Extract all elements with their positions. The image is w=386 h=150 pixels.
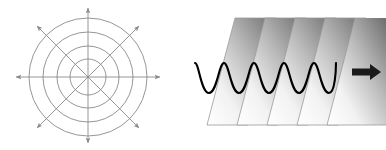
plane-wave-svg — [193, 0, 386, 150]
spherical-wave-svg — [0, 0, 193, 150]
radiating-arrow-group — [16, 8, 160, 143]
figure-root — [0, 0, 386, 150]
arrow-northeast — [88, 26, 139, 77]
plane-wave-panel — [193, 0, 386, 150]
arrow-southwest — [37, 77, 88, 128]
arrow-southeast — [88, 77, 139, 128]
arrow-northwest — [37, 26, 88, 77]
spherical-wave-panel — [0, 0, 193, 150]
